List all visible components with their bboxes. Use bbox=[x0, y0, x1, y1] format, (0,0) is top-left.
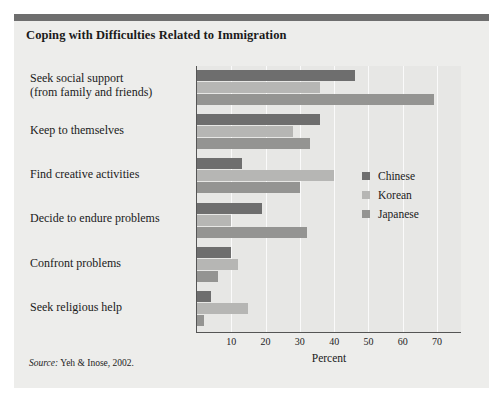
legend: ChineseKoreanJapanese bbox=[362, 166, 419, 223]
bar-korean-4 bbox=[197, 259, 238, 270]
bar-korean-2 bbox=[197, 170, 334, 181]
x-tick-label-40: 40 bbox=[329, 336, 339, 347]
source-citation: Yeh & Inose, 2002. bbox=[58, 358, 134, 368]
category-label-1: Keep to themselves bbox=[30, 123, 124, 137]
figure-screenshot: Coping with Difficulties Related to Immi… bbox=[0, 0, 503, 402]
legend-swatch-icon-chinese bbox=[362, 172, 370, 180]
gridline-20 bbox=[266, 66, 267, 332]
x-tick-label-70: 70 bbox=[432, 336, 442, 347]
source-label: Source: bbox=[29, 358, 58, 368]
x-axis-title: Percent bbox=[312, 352, 346, 364]
legend-item-japanese: Japanese bbox=[362, 204, 419, 223]
bar-chinese-0 bbox=[197, 70, 355, 81]
category-label-5: Seek religious help bbox=[30, 300, 122, 314]
legend-label-chinese: Chinese bbox=[378, 170, 415, 182]
category-label-2: Find creative activities bbox=[30, 167, 139, 181]
bar-korean-1 bbox=[197, 126, 293, 137]
bar-japanese-4 bbox=[197, 271, 218, 282]
legend-swatch-icon-japanese bbox=[362, 210, 370, 218]
category-label-3: Decide to endure problems bbox=[30, 211, 160, 225]
gridline-70 bbox=[437, 66, 438, 332]
bar-chinese-1 bbox=[197, 114, 320, 125]
gridline-30 bbox=[300, 66, 301, 332]
chart-title: Coping with Difficulties Related to Immi… bbox=[26, 28, 287, 43]
legend-label-japanese: Japanese bbox=[378, 208, 419, 220]
category-label-4: Confront problems bbox=[30, 256, 121, 270]
source-note: Source: Yeh & Inose, 2002. bbox=[29, 358, 134, 368]
bar-chinese-3 bbox=[197, 203, 262, 214]
x-tick-label-50: 50 bbox=[363, 336, 373, 347]
bar-korean-3 bbox=[197, 215, 231, 226]
top-rule-divider bbox=[14, 14, 489, 21]
x-tick-label-20: 20 bbox=[261, 336, 271, 347]
bar-chinese-4 bbox=[197, 247, 231, 258]
plot-area bbox=[197, 66, 461, 332]
bar-japanese-1 bbox=[197, 138, 310, 149]
bar-japanese-3 bbox=[197, 227, 307, 238]
gridline-10 bbox=[231, 66, 232, 332]
legend-swatch-icon-korean bbox=[362, 191, 370, 199]
legend-item-chinese: Chinese bbox=[362, 166, 419, 185]
bar-chinese-5 bbox=[197, 291, 211, 302]
x-axis-line bbox=[196, 332, 461, 333]
legend-label-korean: Korean bbox=[378, 189, 412, 201]
legend-item-korean: Korean bbox=[362, 185, 419, 204]
gridline-40 bbox=[334, 66, 335, 332]
bar-korean-0 bbox=[197, 82, 320, 93]
x-tick-label-10: 10 bbox=[226, 336, 236, 347]
bar-korean-5 bbox=[197, 303, 248, 314]
bar-japanese-5 bbox=[197, 315, 204, 326]
bar-chinese-2 bbox=[197, 158, 242, 169]
bar-japanese-2 bbox=[197, 182, 300, 193]
bar-japanese-0 bbox=[197, 94, 434, 105]
x-tick-label-30: 30 bbox=[295, 336, 305, 347]
category-label-0: Seek social support (from family and fri… bbox=[30, 71, 152, 99]
x-tick-label-60: 60 bbox=[398, 336, 408, 347]
